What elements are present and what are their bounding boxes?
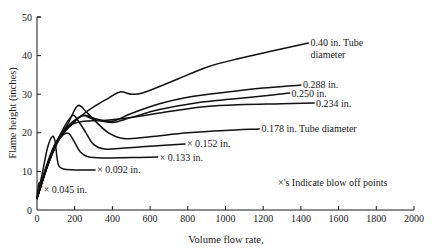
y-tick-label: 20 xyxy=(22,127,32,138)
curve-label-0-133-in: × 0.133 in. xyxy=(160,152,203,163)
curve-label-0-152-in: × 0.152 in. xyxy=(187,138,230,149)
flame-height-chart: 0200400600800100012001400160018002000010… xyxy=(0,0,432,250)
x-tick-label: 600 xyxy=(143,213,158,224)
x-tick-label: 0 xyxy=(35,213,40,224)
x-tick-label: 2000 xyxy=(404,213,424,224)
curve-labels: 0.40 in. Tubediameter0.288 in.0.250 in.0… xyxy=(44,37,364,194)
curve-0-288-in xyxy=(37,85,301,198)
x-tick-label: 1200 xyxy=(253,213,273,224)
x-tick-label: 1800 xyxy=(366,213,386,224)
x-tick-label: 1400 xyxy=(291,213,311,224)
curve-label-0-092-in: × 0.092 in. xyxy=(97,164,140,175)
y-tick-label: 30 xyxy=(22,89,32,100)
curve-label-0-40-in-tube-diameter-line2: diameter xyxy=(310,49,346,60)
y-tick-label: 0 xyxy=(27,205,32,216)
curves xyxy=(37,43,314,199)
x-tick-label: 800 xyxy=(180,213,195,224)
y-axis-title: Flame height (inches) xyxy=(7,67,19,159)
x-tick-label: 200 xyxy=(67,213,82,224)
x-tick-label: 1000 xyxy=(216,213,236,224)
x-tick-label: 1600 xyxy=(329,213,349,224)
curve-label-0-234-in: 0.234 in. xyxy=(316,98,351,109)
y-tick-label: 50 xyxy=(22,12,32,23)
y-tick-label: 40 xyxy=(22,50,32,61)
curve-label-0-40-in-tube-diameter: 0.40 in. Tube xyxy=(310,37,363,48)
x-axis-title: Volume flow rate, xyxy=(188,234,263,245)
curve-label-0-045-in: × 0.045 in. xyxy=(44,184,87,195)
y-tick-label: 10 xyxy=(22,166,32,177)
x-tick-label: 400 xyxy=(105,213,120,224)
blow-off-annotation: ×'s Indicate blow off points xyxy=(278,177,388,188)
curve-label-0-178-in-tube-diameter: 0.178 in. Tube diameter xyxy=(261,123,357,134)
